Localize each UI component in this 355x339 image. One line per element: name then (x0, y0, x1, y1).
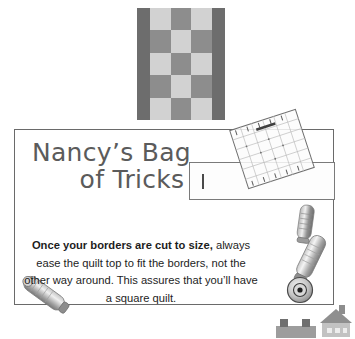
quilt-cell (150, 98, 171, 120)
quilt-cell (191, 53, 212, 75)
page-root: Nancy’s Bag of Tricks Once your borders … (0, 0, 355, 339)
checkerboard-quilt-block (137, 8, 225, 120)
quilt-cell (150, 53, 171, 75)
tip-body-text: Once your borders are cut to size, alway… (22, 237, 260, 307)
quilt-cell (171, 98, 192, 120)
house-icon (276, 316, 316, 338)
house-icon (319, 305, 355, 339)
quilt-cell (191, 30, 212, 52)
tip-lede: Once your borders are cut to size, (32, 239, 213, 251)
quilt-grid (150, 8, 212, 120)
quilt-cell (191, 98, 212, 120)
quilt-cell (191, 8, 212, 30)
quilt-cell (171, 8, 192, 30)
page-title: Nancy’s Bag of Tricks (30, 140, 220, 192)
quilt-cell (150, 30, 171, 52)
title-line-2: of Tricks (30, 167, 220, 192)
quilt-cell (150, 8, 171, 30)
quilt-border-left (137, 8, 150, 120)
quilt-border-right (212, 8, 225, 120)
quilt-cell (191, 75, 212, 97)
rotary-cutter-icon (283, 233, 327, 305)
title-line-1: Nancy’s Bag (30, 140, 220, 165)
quilt-cell (171, 75, 192, 97)
quilt-cell (150, 75, 171, 97)
quilt-cell (171, 53, 192, 75)
quilt-cell (171, 30, 192, 52)
